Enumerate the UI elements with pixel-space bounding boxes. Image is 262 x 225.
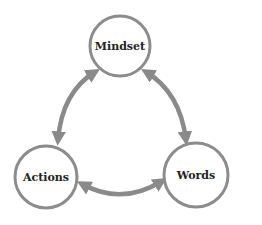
arrow-actions-mindset — [58, 72, 95, 140]
cycle-diagram: Mindset Actions Words — [0, 0, 262, 225]
node-label-actions: Actions — [22, 171, 69, 184]
node-actions: Actions — [15, 146, 77, 208]
arrow-actions-words — [82, 181, 162, 194]
node-words: Words — [164, 143, 228, 207]
node-mindset: Mindset — [90, 16, 150, 76]
node-label-mindset: Mindset — [95, 40, 146, 53]
node-label-words: Words — [176, 169, 215, 182]
arrow-mindset-words — [146, 72, 186, 140]
